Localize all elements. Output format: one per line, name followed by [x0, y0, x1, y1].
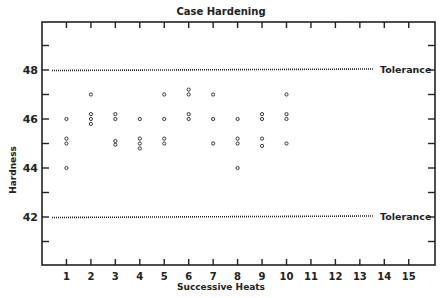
data-point [89, 113, 92, 116]
tolerance-line [52, 216, 374, 218]
x-tick-label: 13 [353, 271, 367, 282]
x-tick-label: 4 [136, 271, 143, 282]
chart-title: Case Hardening [176, 6, 265, 17]
x-tick-label: 8 [234, 271, 241, 282]
x-tick-label: 14 [377, 271, 391, 282]
data-point [65, 117, 68, 120]
data-point [89, 93, 92, 96]
data-point [260, 117, 263, 120]
data-point [114, 113, 117, 116]
data-point [163, 142, 166, 145]
data-point [236, 142, 239, 145]
x-tick-label: 9 [259, 271, 266, 282]
plot-frame [42, 22, 435, 265]
y-tick-labels: 42444648 [23, 64, 39, 224]
y-tick-label: 48 [23, 64, 38, 77]
y-tick-label: 44 [23, 162, 39, 175]
data-point [236, 166, 239, 169]
x-tick-label: 5 [161, 271, 168, 282]
data-point [187, 93, 190, 96]
x-tick-label: 6 [185, 271, 192, 282]
tolerance-label: Tolerance [380, 64, 431, 75]
data-point [89, 122, 92, 125]
data-point [65, 166, 68, 169]
data-point [65, 142, 68, 145]
x-tick-label: 15 [402, 271, 416, 282]
y-tick-label: 46 [23, 113, 39, 126]
x-tick-label: 10 [280, 271, 294, 282]
data-point [260, 144, 263, 147]
x-tick-label: 11 [304, 271, 318, 282]
x-tick-label: 1 [63, 271, 70, 282]
data-point [65, 137, 68, 140]
data-point [212, 117, 215, 120]
data-point [138, 142, 141, 145]
case-hardening-chart: Case Hardening 42444648 1234567891011121… [0, 0, 442, 298]
data-point [163, 117, 166, 120]
x-tick-label: 7 [210, 271, 217, 282]
tolerance-lines: ToleranceTolerance [52, 64, 431, 222]
data-point [236, 137, 239, 140]
x-tick-labels: 123456789101112131415 [63, 271, 416, 282]
data-point [187, 88, 190, 91]
data-point [260, 113, 263, 116]
data-point [285, 93, 288, 96]
data-point [285, 117, 288, 120]
data-point [236, 117, 239, 120]
data-points [65, 88, 288, 170]
data-point [138, 147, 141, 150]
data-point [114, 143, 117, 146]
tolerance-line [52, 69, 374, 71]
data-point [187, 117, 190, 120]
x-tick-label: 2 [87, 271, 94, 282]
data-point [138, 117, 141, 120]
data-point [89, 117, 92, 120]
data-point [285, 142, 288, 145]
data-point [212, 93, 215, 96]
data-point [163, 137, 166, 140]
x-tick-label: 3 [112, 271, 119, 282]
data-point [212, 142, 215, 145]
data-point [285, 113, 288, 116]
x-tick-label: 12 [328, 271, 342, 282]
x-axis-label: Successive Heats [177, 282, 265, 292]
data-point [163, 93, 166, 96]
y-axis-label: Hardness [8, 146, 18, 194]
data-point [260, 137, 263, 140]
y-tick-label: 42 [23, 211, 38, 224]
data-point [114, 117, 117, 120]
data-point [187, 113, 190, 116]
data-point [114, 139, 117, 142]
tolerance-label: Tolerance [380, 211, 431, 222]
data-point [138, 137, 141, 140]
axis-ticks [42, 22, 435, 265]
